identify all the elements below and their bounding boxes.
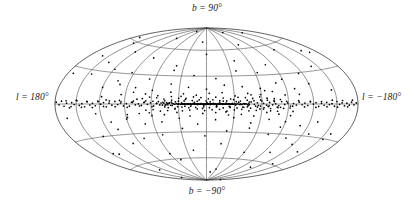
data-point <box>268 118 270 120</box>
data-point <box>97 100 99 102</box>
data-point <box>323 104 325 106</box>
data-point <box>226 130 228 132</box>
data-point <box>196 31 198 33</box>
data-point <box>92 103 94 105</box>
data-point <box>189 109 191 111</box>
data-point <box>202 41 204 43</box>
data-point <box>235 70 237 72</box>
data-point <box>331 89 333 91</box>
data-point <box>253 100 255 102</box>
data-point <box>164 114 166 116</box>
data-point <box>126 118 128 120</box>
data-point <box>259 108 261 110</box>
data-point <box>284 104 286 106</box>
data-point <box>278 113 280 115</box>
data-point <box>157 101 159 103</box>
data-point <box>147 103 149 105</box>
data-point <box>247 93 249 95</box>
data-point <box>298 73 300 75</box>
data-point <box>183 100 185 102</box>
data-point <box>281 78 283 80</box>
data-point <box>280 126 282 128</box>
data-point <box>181 177 183 179</box>
data-point <box>263 103 265 105</box>
data-point <box>144 123 146 125</box>
data-point <box>264 90 266 92</box>
data-point <box>170 104 172 106</box>
data-point <box>61 100 63 102</box>
data-point <box>271 91 273 93</box>
data-point <box>209 101 211 103</box>
data-point <box>240 100 242 102</box>
data-point <box>299 125 301 127</box>
data-point <box>193 75 195 77</box>
data-point <box>308 83 310 85</box>
data-point <box>102 136 104 138</box>
data-point <box>117 80 119 82</box>
data-point <box>283 107 285 109</box>
data-point <box>133 91 135 93</box>
data-point <box>286 100 288 102</box>
data-point <box>177 106 179 108</box>
data-point <box>273 98 275 100</box>
data-point <box>307 105 309 107</box>
data-point <box>281 101 283 103</box>
data-point <box>226 100 228 102</box>
data-point <box>91 107 93 109</box>
data-point <box>249 127 251 129</box>
data-point <box>241 32 243 34</box>
data-point <box>126 114 128 116</box>
data-point <box>260 94 262 96</box>
data-point <box>209 171 211 173</box>
data-point <box>170 91 172 93</box>
data-point <box>308 133 310 135</box>
data-point <box>298 101 300 103</box>
data-point <box>94 105 96 107</box>
data-point <box>222 100 224 102</box>
data-point <box>292 105 294 107</box>
data-point <box>194 102 196 104</box>
data-point <box>151 106 153 108</box>
data-point <box>103 106 105 108</box>
data-point <box>181 106 183 108</box>
data-point <box>215 78 217 80</box>
data-point <box>160 102 162 104</box>
data-point <box>163 102 165 104</box>
data-point <box>221 92 223 94</box>
data-point <box>162 104 164 106</box>
data-point <box>346 102 348 104</box>
data-point <box>152 109 154 111</box>
data-point <box>180 159 182 161</box>
data-point <box>326 101 328 103</box>
data-point <box>171 105 173 107</box>
data-point <box>198 99 200 101</box>
data-point <box>326 106 328 108</box>
data-point <box>171 99 173 101</box>
data-point <box>243 152 245 154</box>
data-point <box>331 103 333 105</box>
data-point <box>151 115 153 117</box>
data-point <box>322 138 324 140</box>
data-point <box>117 104 119 106</box>
data-point <box>215 168 217 170</box>
data-point <box>181 103 183 105</box>
data-point <box>191 100 193 102</box>
data-point <box>318 106 320 108</box>
data-point <box>170 83 172 85</box>
data-point <box>152 89 154 91</box>
data-point <box>149 96 151 98</box>
data-point <box>220 143 222 145</box>
data-point <box>219 101 221 103</box>
data-point <box>280 106 282 108</box>
data-point <box>110 121 112 123</box>
data-point <box>275 103 277 105</box>
data-point <box>131 101 133 103</box>
data-point <box>230 98 232 100</box>
data-point <box>255 110 257 112</box>
data-point <box>108 100 110 102</box>
data-point <box>263 108 265 110</box>
data-point <box>347 106 349 108</box>
data-point <box>236 107 238 109</box>
data-point <box>309 100 311 102</box>
data-point <box>309 51 311 53</box>
